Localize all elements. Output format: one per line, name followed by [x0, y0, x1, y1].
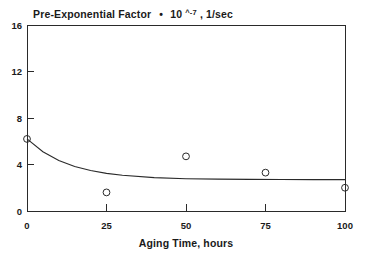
y-tick-label-4: 4	[17, 159, 23, 170]
x-axis-tick-labels: 0 25 50 75 100	[24, 220, 353, 231]
y-tick-label-8: 8	[17, 113, 22, 124]
chart-figure: Pre-Exponential Factor • 10 ^-7 , 1/sec …	[0, 0, 370, 257]
x-tick-label-0: 0	[24, 220, 29, 231]
y-tick-label-0: 0	[17, 206, 22, 217]
x-axis-title: Aging Time, hours	[139, 237, 234, 249]
chart-title-bullet: •	[159, 8, 163, 20]
data-point-marker	[103, 189, 110, 196]
chart-title-units: , 1/sec	[200, 8, 233, 20]
x-tick-label-25: 25	[101, 220, 112, 231]
chart-title-exponent: ^-7	[185, 8, 197, 17]
y-tick-label-12: 12	[11, 66, 22, 77]
chart-title-main: Pre-Exponential Factor	[33, 8, 151, 20]
data-point-marker	[262, 169, 269, 176]
x-tick-label-75: 75	[260, 220, 271, 231]
y-axis-ticks	[27, 25, 34, 211]
y-axis-tick-labels: 0 4 8 12 16	[11, 20, 22, 217]
x-tick-label-50: 50	[181, 220, 192, 231]
x-axis-ticks	[27, 204, 345, 211]
data-point-marker	[183, 153, 190, 160]
chart-title: Pre-Exponential Factor • 10 ^-7 , 1/sec	[33, 5, 233, 20]
x-tick-label-100: 100	[337, 220, 353, 231]
plot-frame	[27, 25, 345, 211]
chart-title-base: 10	[170, 8, 182, 20]
pre-exponential-factor-chart: Pre-Exponential Factor • 10 ^-7 , 1/sec …	[0, 0, 370, 257]
y-tick-label-16: 16	[11, 20, 22, 31]
